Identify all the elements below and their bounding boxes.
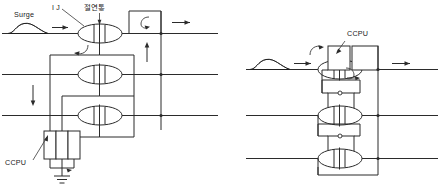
ccpu-box-right <box>328 46 378 70</box>
output-arrow-top <box>172 20 190 25</box>
surge-symbol <box>8 23 48 33</box>
label-ij: I J <box>52 4 60 11</box>
label-surge: Surge <box>14 10 34 19</box>
ij-pointer <box>62 9 84 26</box>
right-riser <box>159 11 162 130</box>
return-arrow-down <box>31 85 36 106</box>
return-arrow-up <box>145 42 150 62</box>
coupler-bottom-right <box>318 134 362 170</box>
loop-arrow-top <box>74 45 88 55</box>
ground-connection <box>50 159 74 183</box>
ccpu-resistor-bank <box>44 131 80 159</box>
surge-input-arrow <box>52 25 68 30</box>
label-insulation: 절연통 <box>84 3 106 12</box>
figure-container: Surge I J 절연통 CCPU <box>0 0 441 194</box>
coupler-middle-right <box>318 91 362 127</box>
surge-input-arrow-right <box>294 61 311 66</box>
coupler-bottom <box>78 105 122 127</box>
output-arrow-right <box>392 61 410 66</box>
resistor-1 <box>44 131 56 159</box>
resistor-3 <box>68 131 80 159</box>
label-ccpu-right: CCPU <box>347 29 368 38</box>
coupler-top <box>78 23 122 45</box>
ground-icon <box>54 176 70 183</box>
label-ccpu-left: CCPU <box>5 158 26 167</box>
right-diagram: CCPU <box>246 29 438 175</box>
insulation-pointer <box>98 13 102 25</box>
coupler-middle <box>78 64 122 86</box>
top-right-box <box>129 11 161 34</box>
resistor-2 <box>56 131 68 159</box>
left-diagram: Surge I J 절연통 CCPU <box>2 3 218 183</box>
surge-symbol-right <box>250 59 290 69</box>
ccpu-side-module <box>352 46 378 70</box>
loop-arrow-top-right <box>310 45 324 55</box>
